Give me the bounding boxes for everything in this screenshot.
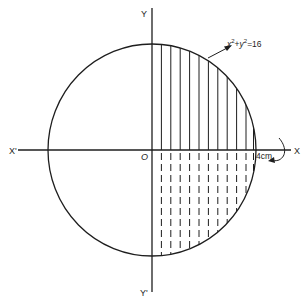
y-axis-label: Y xyxy=(141,9,147,19)
circle-rotation-diagram: Y Y' X X' O 4cm x2+y2=16 xyxy=(0,0,305,306)
x-neg-axis-label: X' xyxy=(9,146,17,156)
equation-label: x2+y2=16 xyxy=(226,38,262,49)
origin-label: O xyxy=(141,152,148,162)
y-neg-axis-label: Y' xyxy=(140,288,148,298)
x-axis-label: X xyxy=(294,146,300,156)
first-quadrant-hatching xyxy=(161,40,253,150)
radius-label: 4cm xyxy=(256,151,272,161)
